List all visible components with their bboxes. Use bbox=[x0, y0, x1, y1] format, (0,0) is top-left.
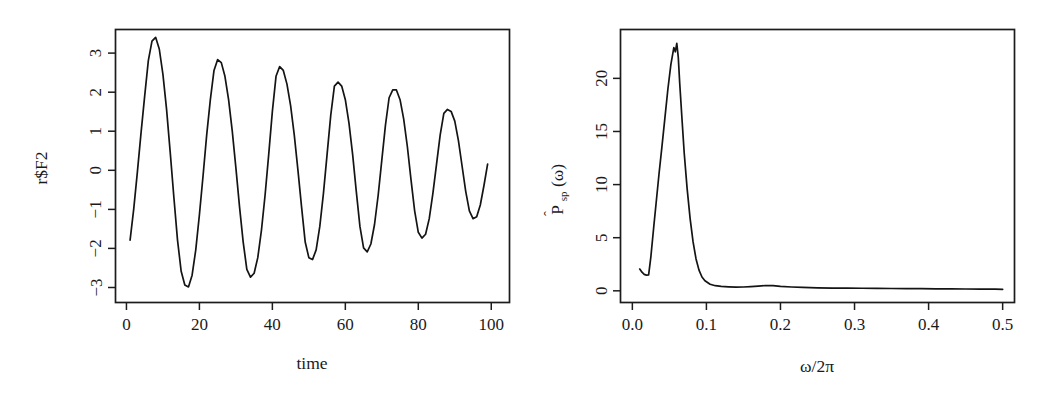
y-axis-tick-labels-left: −3 −2 −1 0 1 2 3 bbox=[87, 49, 106, 297]
y-tick-label: −1 bbox=[87, 200, 106, 218]
y-tick-label: 15 bbox=[592, 123, 611, 140]
x-tick-label: 60 bbox=[337, 315, 354, 334]
figure-two-panel-plot: −3 −2 −1 0 1 2 3 020406080100 time r$F2 bbox=[0, 0, 1059, 406]
x-axis-ticks-left bbox=[126, 303, 491, 311]
x-tick-label: 0.4 bbox=[918, 315, 940, 334]
panel-time-series: −3 −2 −1 0 1 2 3 020406080100 time r$F2 bbox=[0, 0, 530, 406]
y-tick-label: 5 bbox=[592, 233, 611, 242]
x-tick-label: 0.3 bbox=[844, 315, 865, 334]
x-axis-ticks-right bbox=[632, 303, 1002, 311]
y-tick-label: 20 bbox=[592, 70, 611, 87]
x-tick-label: 40 bbox=[264, 315, 281, 334]
y-axis-title-right: ˆ P sp (ω) bbox=[538, 164, 571, 216]
y-tick-label: 0 bbox=[87, 166, 106, 175]
spectral-density-line bbox=[640, 43, 1003, 289]
x-tick-label: 0.1 bbox=[696, 315, 717, 334]
spectral-density-svg: 05101520 0.00.10.20.30.40.5 ω/2π ˆ P sp … bbox=[530, 0, 1059, 406]
x-tick-label: 80 bbox=[410, 315, 427, 334]
y-tick-label: 0 bbox=[592, 287, 611, 296]
x-tick-label: 100 bbox=[479, 315, 505, 334]
x-axis-tick-labels-right: 0.00.10.20.30.40.5 bbox=[622, 315, 1014, 334]
y-axis-tick-labels-right: 05101520 bbox=[592, 70, 611, 295]
panel-spectral-density: 05101520 0.00.10.20.30.40.5 ω/2π ˆ P sp … bbox=[530, 0, 1059, 406]
y-axis-title-p: P bbox=[547, 205, 567, 215]
y-tick-label: 10 bbox=[592, 176, 611, 193]
x-tick-label: 0.5 bbox=[992, 315, 1013, 334]
x-axis-title-right: ω/2π bbox=[800, 356, 834, 376]
y-axis-ticks-right bbox=[613, 78, 621, 290]
y-tick-label: −3 bbox=[87, 278, 106, 296]
y-axis-title-subscript: sp bbox=[557, 191, 569, 201]
svg-text:ˆ P sp: ˆ P sp (ω) bbox=[538, 164, 571, 216]
y-axis-title-arg: (ω) bbox=[547, 164, 567, 187]
y-tick-label: 2 bbox=[87, 88, 106, 97]
y-tick-label: −2 bbox=[87, 239, 106, 257]
y-tick-label: 3 bbox=[87, 49, 106, 58]
y-axis-ticks-left bbox=[108, 53, 116, 287]
time-series-line bbox=[130, 37, 488, 287]
y-axis-title-left: r$F2 bbox=[31, 151, 51, 184]
time-series-svg: −3 −2 −1 0 1 2 3 020406080100 time r$F2 bbox=[0, 0, 530, 406]
x-tick-label: 0.2 bbox=[770, 315, 791, 334]
plot-frame-left bbox=[116, 30, 510, 303]
x-axis-tick-labels-left: 020406080100 bbox=[122, 315, 504, 334]
x-tick-label: 20 bbox=[191, 315, 208, 334]
y-tick-label: 1 bbox=[87, 127, 106, 136]
x-tick-label: 0.0 bbox=[622, 315, 643, 334]
x-tick-label: 0 bbox=[122, 315, 131, 334]
x-axis-title-left: time bbox=[296, 353, 327, 373]
